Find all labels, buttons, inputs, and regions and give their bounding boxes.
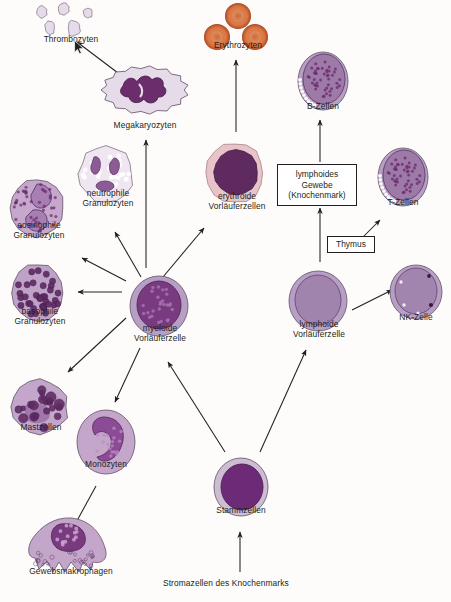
caption-stromazellen: Stromazellen des Knochenmarks: [163, 578, 289, 588]
mast-cell-icon: [6, 374, 76, 444]
label-myeloide-vorlaeuferzelle: myeloide Vorläuferzelle: [111, 323, 209, 343]
cell-node-monozyten[interactable]: Monozyten: [73, 405, 139, 507]
label-gewebsmakrophagen: Gewebsmakrophagen: [8, 566, 134, 576]
label-megakaryozyten: Megakaryozyten: [86, 120, 204, 130]
cell-node-myeloide-vorlaeuferzelle[interactable]: myeloide Vorläuferzelle: [124, 271, 196, 373]
label-t-zellen: T-Zellen: [359, 197, 447, 207]
arrow-myeloid-to-erythroid: [163, 228, 204, 277]
label-erythrozyten: Erythrozyten: [180, 40, 296, 50]
label-box-lymphoides-gewebe[interactable]: lymphoides Gewebe (Knochenmark): [277, 164, 357, 206]
cell-node-t-zellen[interactable]: T-Zellen: [372, 143, 434, 239]
label-erythroide-vorlaeuferzellen: erythroide Vorläuferzellen: [186, 191, 288, 211]
diagram-canvas: ThrombozytenErythrozytenMegakaryozytenB-…: [0, 0, 451, 602]
label-b-zellen: B-Zellen: [279, 101, 367, 111]
label-eosinophile-granulozyten: eosinophile Granulozyten: [0, 220, 88, 240]
cell-node-mastzellen[interactable]: Mastzellen: [6, 374, 76, 470]
label-basophile-granulozyten: basophile Granulozyten: [0, 306, 88, 326]
arrow-myeloid-to-eosinophil: [82, 258, 126, 281]
cell-node-gewebsmakrophagen[interactable]: Gewebsmakrophagen: [21, 512, 121, 602]
arrow-stamm-to-myeloid: [168, 362, 225, 452]
cell-node-lymphoide-vorlaeuferzelle[interactable]: lymphoide Vorläuferzelle: [283, 265, 355, 369]
cell-node-erythrozyten[interactable]: Erythrozyten: [193, 2, 283, 78]
stem-cell-icon: [208, 451, 274, 527]
label-thrombozyten: Thrombozyten: [15, 34, 127, 44]
cell-node-stammzellen[interactable]: Stammzellen: [208, 451, 274, 553]
label-nk-zelle: NK-Zelle: [372, 312, 451, 322]
cell-node-erythroide-vorlaeuferzellen[interactable]: erythroide Vorläuferzellen: [199, 135, 275, 241]
cell-node-nk-zelle[interactable]: NK-Zelle: [385, 258, 447, 354]
cell-node-basophile-granulozyten[interactable]: basophile Granulozyten: [5, 258, 75, 360]
cell-node-thrombozyten[interactable]: Thrombozyten: [28, 2, 114, 72]
label-stammzellen: Stammzellen: [195, 505, 287, 515]
label-box-thymus[interactable]: Thymus: [327, 236, 375, 253]
label-lymphoide-vorlaeuferzelle: lymphoide Vorläuferzelle: [270, 319, 368, 339]
cell-node-b-zellen[interactable]: B-Zellen: [292, 47, 354, 143]
monocyte-icon: [73, 405, 139, 481]
label-monozyten: Monozyten: [60, 459, 152, 469]
